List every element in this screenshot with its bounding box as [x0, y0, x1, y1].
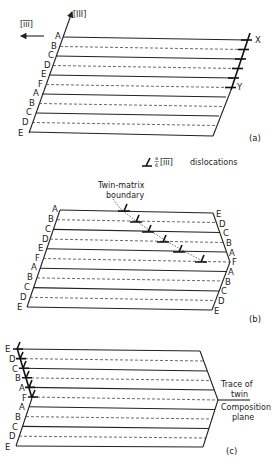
twin-matrix-label: Twin-matrix: [97, 181, 145, 190]
stack-label: E: [216, 209, 221, 219]
stack-label: D: [20, 292, 27, 302]
stack-label: B: [15, 412, 21, 422]
panel-c-label: (c): [226, 446, 237, 456]
stack-label: E: [18, 128, 23, 138]
plane-label: plane: [232, 413, 254, 422]
legend-direction: [īīī]: [160, 158, 173, 167]
stack-label: A: [19, 383, 25, 393]
stack-label: C: [48, 50, 54, 60]
twinning-diagram: [III] [īīī] X Y A B C D E F: [0, 0, 277, 467]
fraction-numerator: a: [155, 155, 158, 161]
legend: a 6 [īīī] dislocations: [142, 155, 237, 168]
stack-label: A: [31, 262, 37, 272]
axis-direction-label: [III]: [73, 10, 86, 19]
stack-label: A: [19, 402, 25, 412]
fraction-denominator: 6: [155, 162, 158, 168]
stack-label: D: [22, 117, 29, 127]
shear-direction-label: [īīī]: [20, 20, 33, 29]
stack-label: A: [52, 204, 58, 214]
stack-label: A: [55, 31, 61, 41]
stack-label: E: [5, 344, 10, 354]
stack-label: B: [27, 272, 33, 282]
stack-label: D: [9, 354, 16, 364]
stack-label: C: [24, 282, 30, 292]
boundary-label: boundary: [106, 191, 144, 200]
panel-a: [III] [īīī] X Y A B C D E F: [18, 10, 261, 143]
stack-label: C: [45, 224, 51, 234]
panel-b: Twin-matrix boundary A B C D E F A: [17, 181, 261, 324]
stack-label: C: [221, 286, 227, 296]
dislocation-symbol-icon: [142, 158, 152, 166]
stack-label: B: [48, 214, 54, 224]
panel-c: E D C B A F A B C D E Trace of twin Comp…: [5, 342, 271, 456]
stack-label: A: [228, 267, 234, 277]
stack-label: E: [17, 302, 22, 312]
stack-label: B: [226, 238, 232, 248]
stack-label: E: [38, 243, 43, 253]
trace-label: Trace of: [220, 380, 253, 389]
stack-label: D: [9, 431, 16, 441]
stack-label: C: [223, 228, 229, 238]
stack-label: B: [15, 373, 21, 383]
marker-y: Y: [236, 82, 243, 92]
twin-label: twin: [231, 390, 248, 399]
marker-x: X: [255, 35, 261, 45]
legend-text: dislocations: [190, 158, 237, 167]
panel-a-label: (a): [249, 133, 261, 143]
stack-label: C: [26, 107, 32, 117]
stack-label: E: [41, 69, 46, 79]
stack-label: A: [33, 88, 39, 98]
stack-label: E: [214, 306, 219, 316]
stack-label: E: [5, 442, 10, 452]
axis-arrow: [29, 12, 72, 133]
composition-label: Composition: [221, 403, 271, 412]
stack-label: F: [232, 257, 237, 267]
stack-label: D: [218, 296, 225, 306]
panel-b-label: (b): [249, 314, 261, 324]
